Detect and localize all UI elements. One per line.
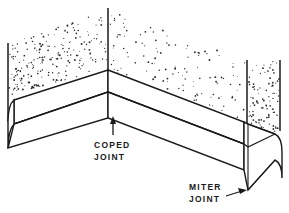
stipple-dot xyxy=(75,33,77,35)
stipple-dot xyxy=(258,119,260,121)
stipple-dot xyxy=(213,94,215,96)
stipple-dot xyxy=(252,111,253,112)
stipple-dot xyxy=(21,78,23,80)
stipple-dot xyxy=(167,81,168,82)
stipple-dot xyxy=(57,53,58,54)
stipple-dot xyxy=(33,66,35,68)
stipple-dot xyxy=(41,76,42,77)
stipple-dot xyxy=(56,66,58,68)
stipple-dot xyxy=(252,119,254,121)
stipple-dot xyxy=(198,55,199,56)
stipple-dot xyxy=(48,74,50,76)
stipple-dot xyxy=(214,76,216,78)
stipple-dot xyxy=(175,66,176,67)
stipple-dot xyxy=(28,77,29,78)
stipple-dot xyxy=(251,116,252,117)
stipple-dot xyxy=(57,73,58,74)
stipple-dot xyxy=(19,78,20,79)
stipple-dot xyxy=(256,100,258,102)
stipple-dot xyxy=(272,61,273,62)
stipple-dot xyxy=(31,62,33,64)
stipple-dot xyxy=(151,63,153,65)
stipple-dot xyxy=(268,114,270,116)
stipple-dot xyxy=(73,50,74,51)
stipple-dot xyxy=(42,85,44,87)
stipple-dot xyxy=(9,54,10,55)
stipple-dot xyxy=(175,44,177,46)
stipple-dot xyxy=(15,48,16,49)
stipple-dot xyxy=(104,48,105,49)
stipple-dot xyxy=(25,42,27,44)
stipple-dot xyxy=(36,50,37,51)
stipple-dot xyxy=(95,59,96,60)
stipple-dot xyxy=(100,24,102,26)
stipple-dot xyxy=(272,69,274,71)
stipple-dot xyxy=(56,79,58,81)
stipple-dot xyxy=(23,59,24,60)
stipple-dot xyxy=(252,97,254,99)
stipple-dot xyxy=(113,60,114,61)
stipple-dot xyxy=(88,16,89,17)
stipple-dot xyxy=(64,79,65,80)
stipple-dot xyxy=(90,57,91,58)
stipple-dot xyxy=(15,68,17,70)
stipple-dot xyxy=(84,41,85,42)
stipple-dot xyxy=(55,81,56,82)
stipple-dot xyxy=(80,68,81,69)
stipple-dot xyxy=(258,122,259,123)
stipple-dot xyxy=(114,20,116,22)
stipple-dot xyxy=(79,63,80,64)
stipple-dot xyxy=(52,64,54,66)
stipple-dot xyxy=(12,48,13,49)
stipple-dot xyxy=(100,41,102,43)
stipple-dot xyxy=(217,83,218,84)
stipple-dot xyxy=(123,23,124,24)
stipple-dot xyxy=(182,75,183,76)
stipple-dot xyxy=(223,105,224,106)
stipple-dot xyxy=(71,24,72,25)
stipple-dot xyxy=(124,27,125,28)
stipple-dot xyxy=(251,122,253,124)
stipple-dot xyxy=(88,34,89,35)
stipple-dot xyxy=(40,71,42,73)
stipple-dot xyxy=(21,79,22,80)
stipple-dot xyxy=(154,63,155,64)
stipple-dot xyxy=(74,30,76,32)
stipple-dot xyxy=(268,96,269,97)
stipple-dot xyxy=(204,51,206,53)
stipple-dot xyxy=(127,52,128,53)
stipple-dot xyxy=(79,60,81,62)
stipple-dot xyxy=(12,45,13,46)
stipple-dot xyxy=(40,45,42,47)
stipple-dot xyxy=(260,124,261,125)
stipple-dot xyxy=(13,56,14,57)
stipple-dot xyxy=(275,126,277,128)
stipple-dot xyxy=(119,14,121,16)
stipple-dot xyxy=(95,61,96,62)
stipple-dot xyxy=(218,55,219,56)
stipple-dot xyxy=(277,127,279,129)
stipple-dot xyxy=(256,102,257,103)
stipple-dot xyxy=(13,89,14,90)
stipple-dot xyxy=(76,76,77,77)
stipple-dot xyxy=(270,64,271,65)
stipple-dot xyxy=(252,114,254,116)
stipple-dot xyxy=(22,89,24,91)
stipple-dot xyxy=(73,27,74,28)
stipple-dot xyxy=(243,109,245,111)
stipple-dot xyxy=(127,56,128,57)
stipple-dot xyxy=(79,51,80,52)
stipple-dot xyxy=(63,38,64,39)
stipple-dot xyxy=(48,45,50,47)
stipple-dot xyxy=(232,66,234,68)
stipple-dot xyxy=(263,100,265,102)
stipple-dot xyxy=(275,83,276,84)
stipple-dot xyxy=(256,65,257,66)
stipple-dot xyxy=(152,78,154,80)
stipple-dot xyxy=(46,41,47,42)
stipple-dot xyxy=(150,27,152,29)
stipple-dot xyxy=(257,89,258,90)
stipple-dot xyxy=(269,123,270,124)
stipple-dot xyxy=(196,99,198,101)
stipple-dot xyxy=(153,31,154,32)
